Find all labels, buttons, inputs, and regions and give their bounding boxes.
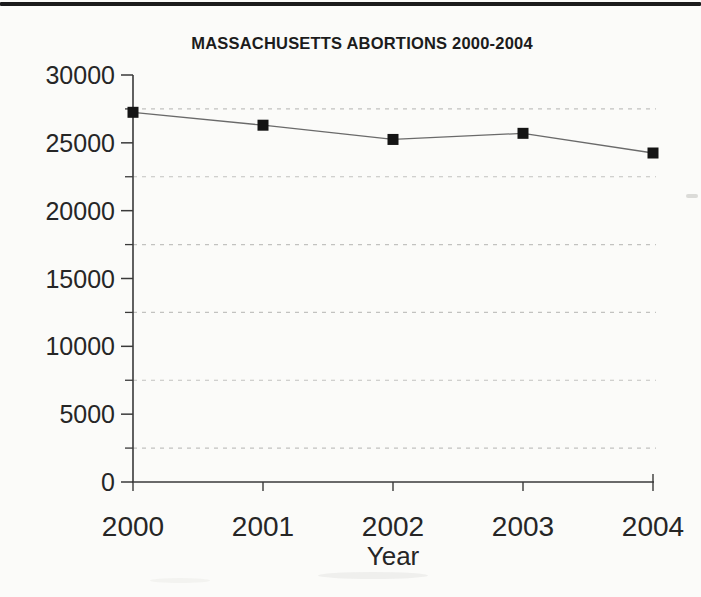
x-tick-label: 2003 xyxy=(492,511,554,542)
x-tick-label: 2001 xyxy=(232,511,294,542)
x-tick-label: 2002 xyxy=(362,511,424,542)
data-point-marker xyxy=(388,134,399,145)
y-tick-label: 10000 xyxy=(45,332,115,360)
x-axis-title: Year xyxy=(367,541,420,572)
y-tick-label: 25000 xyxy=(45,129,115,157)
y-tick-label: 20000 xyxy=(45,197,115,225)
y-tick-label: 15000 xyxy=(45,265,115,293)
plot-area: 0500010000150002000025000300002000200120… xyxy=(0,0,701,597)
data-point-marker xyxy=(648,148,659,159)
scan-artifact xyxy=(686,194,698,198)
series-line xyxy=(133,112,653,153)
scanned-page: MASSACHUSETTS ABORTIONS 2000-2004 050001… xyxy=(0,0,701,597)
x-tick-label: 2004 xyxy=(622,511,684,542)
y-tick-label: 0 xyxy=(101,468,115,496)
data-point-marker xyxy=(258,120,269,131)
x-tick-label: 2000 xyxy=(102,511,164,542)
y-tick-label: 5000 xyxy=(59,400,115,428)
y-tick-label: 30000 xyxy=(45,61,115,89)
scan-artifact xyxy=(150,578,210,583)
data-point-marker xyxy=(128,107,139,118)
scan-artifact xyxy=(318,572,428,579)
data-point-marker xyxy=(518,128,529,139)
